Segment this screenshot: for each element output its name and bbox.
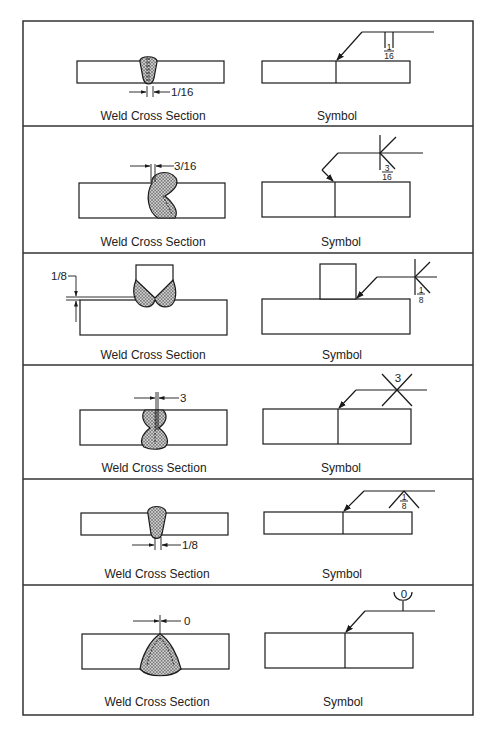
caption-cross-section: Weld Cross Section bbox=[100, 109, 205, 123]
symbol-denominator: 8 bbox=[402, 501, 407, 511]
symbol-label: 0 bbox=[401, 588, 407, 600]
weld-symbol-1: 1 16 bbox=[262, 32, 434, 83]
caption-cross-section: Weld Cross Section bbox=[104, 567, 209, 581]
cross-section-2: 3/16 bbox=[79, 160, 225, 218]
weld-symbols-figure: 1/16 Weld Cross Section 1 16 Symbol 3/16 bbox=[0, 0, 493, 734]
dimension-label: 1/8 bbox=[182, 539, 198, 551]
panel-6: 0 Weld Cross Section 0 Symbol bbox=[82, 588, 435, 709]
caption-symbol: Symbol bbox=[322, 348, 362, 362]
dimension-label: 3/16 bbox=[174, 160, 196, 172]
caption-symbol: Symbol bbox=[322, 567, 362, 581]
cross-section-3: 1/8 bbox=[51, 265, 227, 335]
weld-symbol-5: 1 8 bbox=[264, 491, 435, 534]
dimension-label: 1/16 bbox=[171, 86, 193, 98]
cross-section-4: 3 bbox=[80, 392, 227, 449]
panel-3: 1/8 Weld Cross Section 1 8 Symbol bbox=[51, 259, 437, 362]
caption-symbol: Symbol bbox=[323, 695, 363, 709]
cross-section-5: 1/8 bbox=[81, 507, 228, 552]
dimension-label: 1/8 bbox=[51, 270, 67, 282]
caption-cross-section: Weld Cross Section bbox=[100, 348, 205, 362]
dimension-label: 3 bbox=[180, 392, 186, 404]
caption-symbol: Symbol bbox=[317, 109, 357, 123]
panel-1: 1/16 Weld Cross Section 1 16 Symbol bbox=[77, 32, 434, 123]
symbol-label: 3 bbox=[395, 372, 401, 384]
symbol-denominator: 16 bbox=[384, 51, 394, 61]
weld-symbol-2: 3 16 bbox=[262, 135, 423, 217]
symbol-numerator: 1 bbox=[419, 285, 424, 295]
caption-symbol: Symbol bbox=[321, 461, 361, 475]
weld-symbol-4: 3 bbox=[263, 372, 427, 444]
caption-symbol: Symbol bbox=[321, 235, 361, 249]
panel-2: 3/16 Weld Cross Section 3 16 Symbol bbox=[79, 135, 423, 249]
caption-cross-section: Weld Cross Section bbox=[104, 695, 209, 709]
panel-5: 1/8 Weld Cross Section 1 8 Symbol bbox=[81, 491, 435, 581]
dimension-label: 0 bbox=[184, 615, 190, 627]
weld-symbol-3: 1 8 bbox=[262, 259, 437, 334]
weld-symbol-6: 0 bbox=[265, 588, 435, 668]
cross-section-6: 0 bbox=[82, 615, 229, 676]
caption-cross-section: Weld Cross Section bbox=[101, 461, 206, 475]
symbol-denominator: 8 bbox=[419, 295, 424, 305]
cross-section-1: 1/16 bbox=[77, 57, 224, 98]
symbol-denominator: 16 bbox=[382, 172, 392, 182]
panel-4: 3 Weld Cross Section 3 Symbol bbox=[80, 372, 427, 475]
caption-cross-section: Weld Cross Section bbox=[100, 235, 205, 249]
